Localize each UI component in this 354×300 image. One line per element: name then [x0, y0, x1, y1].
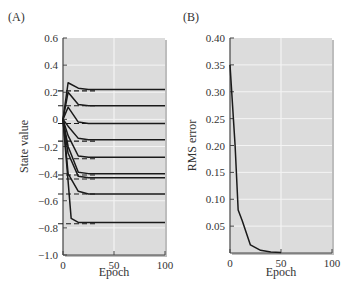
y-tick-label: −0.4 [38, 168, 58, 180]
x-tick-label: 100 [157, 259, 174, 271]
y-tick-label: 0.6 [44, 32, 58, 44]
y-tick-label: 0.25 [206, 113, 226, 125]
chart-canvas: (A)0.60.40.20−0.2−0.4−0.6−0.8−1.0050100E… [0, 0, 354, 300]
y-tick-label: −1.0 [38, 249, 58, 261]
y-axis-label: State value [17, 120, 31, 173]
y-tick-label: 0.40 [206, 32, 226, 44]
y-tick-label: 0.15 [206, 166, 226, 178]
panel-b-rms-error-chart: (B)0.400.350.300.250.200.150.100.0505010… [183, 10, 341, 279]
y-tick-label: −0.2 [38, 141, 58, 153]
y-tick-label: 0 [53, 113, 59, 125]
y-tick-label: −0.8 [38, 222, 58, 234]
panel-label: (B) [183, 10, 199, 24]
y-tick-label: 0.35 [206, 59, 226, 71]
panel-a-state-value-chart: (A)0.60.40.20−0.2−0.4−0.6−0.8−1.0050100E… [8, 10, 174, 279]
x-axis-label: Epoch [266, 265, 297, 279]
y-tick-label: −0.6 [38, 195, 58, 207]
y-tick-label: 0.10 [206, 193, 226, 205]
y-tick-label: 0.4 [44, 59, 58, 71]
y-tick-label: 0.05 [206, 220, 226, 232]
y-tick-label: 0.30 [206, 86, 226, 98]
y-tick-label: 0.20 [206, 140, 226, 152]
y-tick-label: 0.2 [44, 86, 58, 98]
x-tick-label: 0 [227, 257, 233, 269]
panel-label: (A) [8, 10, 25, 24]
x-axis-label: Epoch [99, 265, 130, 279]
figure: (A)0.60.40.20−0.2−0.4−0.6−0.8−1.0050100E… [0, 0, 354, 300]
y-axis-label: RMS error [185, 120, 199, 172]
x-tick-label: 0 [60, 259, 66, 271]
x-tick-label: 100 [324, 257, 341, 269]
